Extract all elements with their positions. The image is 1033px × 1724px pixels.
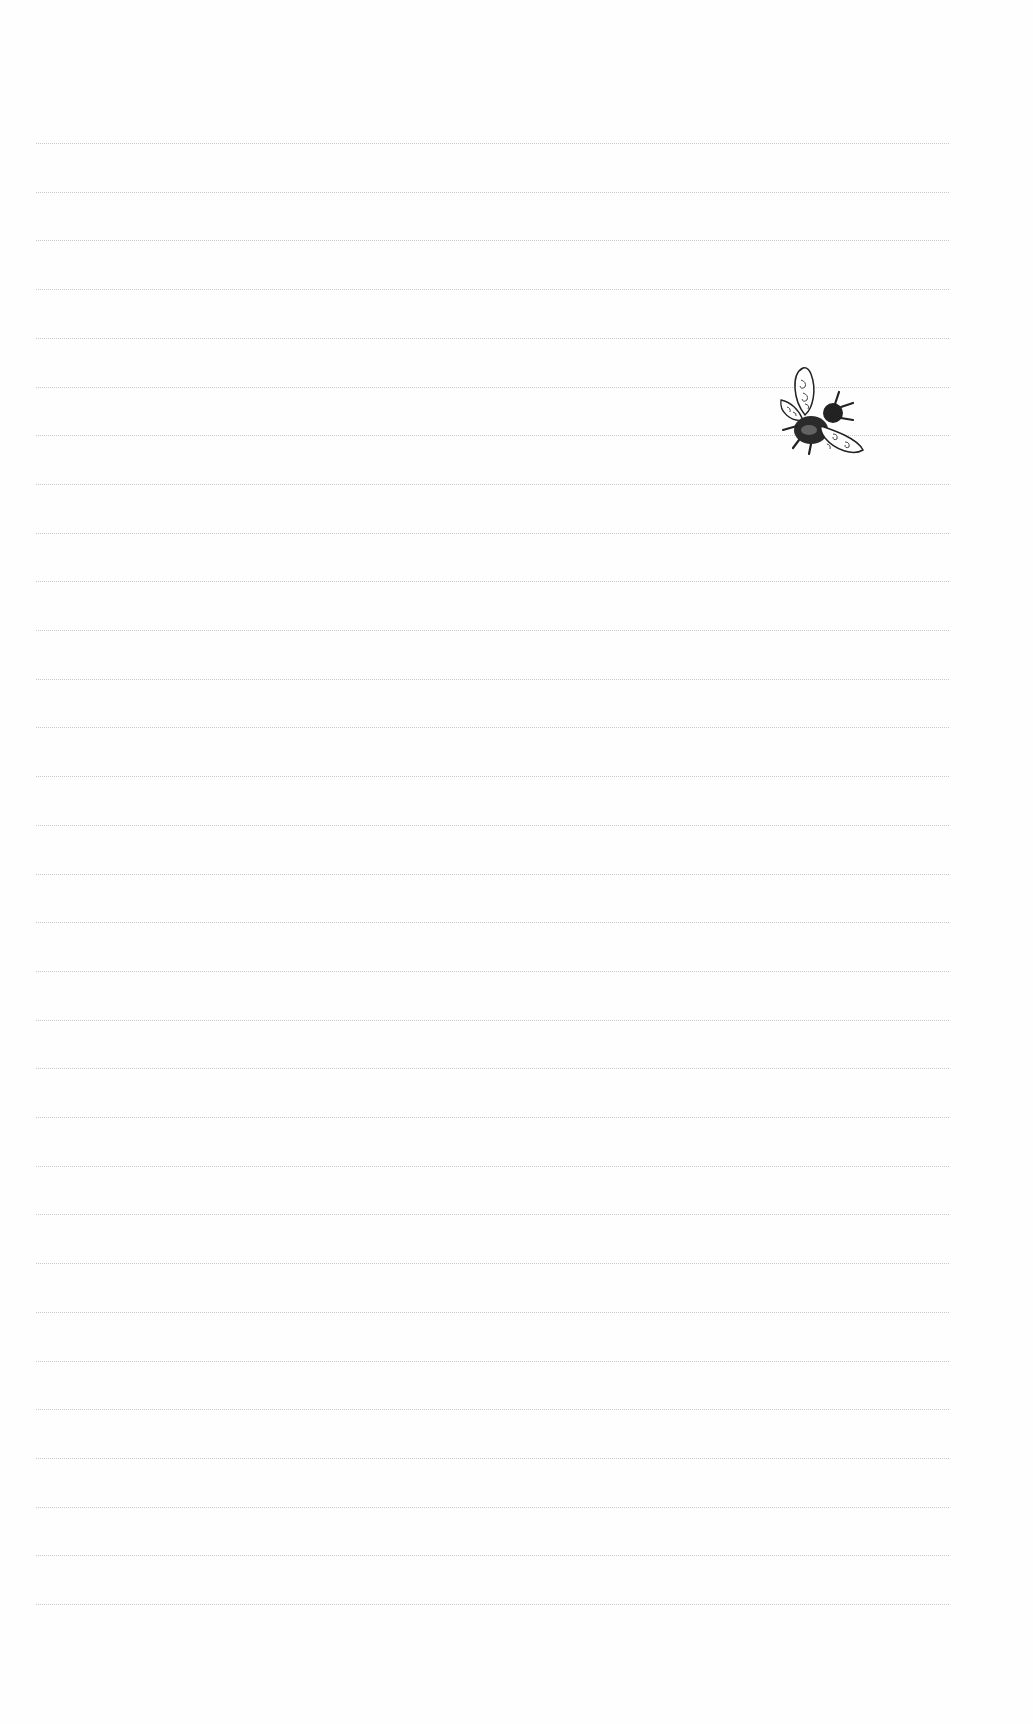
ruled-line — [36, 533, 949, 534]
ruled-line — [36, 192, 949, 193]
ruled-line — [36, 1361, 949, 1362]
ruled-line — [36, 727, 949, 728]
ruled-line — [36, 484, 949, 485]
ruled-line — [36, 630, 949, 631]
ruled-line — [36, 1020, 949, 1021]
lined-paper-page — [0, 0, 1033, 1724]
ruled-line — [36, 581, 949, 582]
ruled-line — [36, 289, 949, 290]
ruled-line — [36, 338, 949, 339]
ruled-line — [36, 1214, 949, 1215]
ruled-line — [36, 1312, 949, 1313]
ruled-line — [36, 240, 949, 241]
ruled-line — [36, 1458, 949, 1459]
ruled-line — [36, 874, 949, 875]
ruled-line — [36, 776, 949, 777]
ruled-line — [36, 1555, 949, 1556]
ruled-line — [36, 971, 949, 972]
ruled-line — [36, 1409, 949, 1410]
ruled-line — [36, 1507, 949, 1508]
ruled-line — [36, 922, 949, 923]
ruled-line — [36, 143, 949, 144]
ruled-line — [36, 1604, 949, 1605]
ruled-line — [36, 1166, 949, 1167]
ruled-line — [36, 679, 949, 680]
bee-icon — [775, 360, 870, 460]
ruled-line — [36, 825, 949, 826]
ruled-line — [36, 1068, 949, 1069]
ruled-line — [36, 1117, 949, 1118]
ruled-line — [36, 1263, 949, 1264]
